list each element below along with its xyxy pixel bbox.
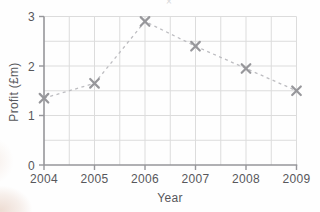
y-tick-label: 3 bbox=[28, 10, 35, 24]
x-tick-label: 2008 bbox=[232, 172, 260, 186]
y-tick-label: 1 bbox=[28, 109, 35, 123]
x-tick-label: 2006 bbox=[131, 172, 159, 186]
plot-area: 0123200420052006200720082009 bbox=[0, 0, 320, 212]
y-tick-label: 2 bbox=[28, 60, 35, 74]
profit-line-chart-figure: × 0123200420052006200720082009 Profit (£… bbox=[0, 0, 320, 212]
x-tick-label: 2004 bbox=[30, 172, 58, 186]
x-tick-label: 2007 bbox=[182, 172, 210, 186]
y-tick-label: 0 bbox=[28, 159, 35, 173]
x-tick-label: 2009 bbox=[283, 172, 311, 186]
x-tick-label: 2005 bbox=[81, 172, 109, 186]
x-axis-title: Year bbox=[157, 191, 182, 205]
y-axis-title: Profit (£m) bbox=[7, 62, 21, 121]
